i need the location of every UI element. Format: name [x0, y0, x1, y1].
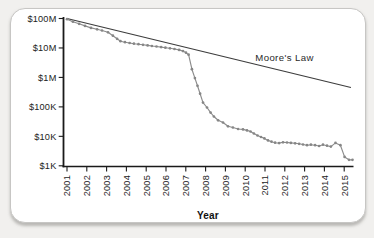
y-tick-label: $100M: [27, 14, 56, 24]
y-tick-label: $100K: [29, 102, 57, 112]
cost-series-marker: [294, 142, 297, 145]
x-tick-label: 2010: [241, 175, 251, 196]
cost-series-marker: [302, 143, 305, 146]
cost-series-marker: [90, 27, 93, 30]
cost-series-marker: [160, 46, 163, 49]
cost-series-marker: [185, 51, 188, 54]
cost-series-marker: [124, 41, 127, 44]
cost-series-marker: [155, 45, 158, 48]
x-axis-title: Year: [197, 210, 219, 221]
x-tick-label: 2003: [102, 175, 112, 196]
series-layer: [66, 18, 354, 161]
cost-series-marker: [213, 115, 216, 118]
cost-series-marker: [326, 144, 329, 147]
x-tick-label: 2007: [181, 175, 191, 196]
cost-series-marker: [119, 40, 122, 43]
x-tick-label: 2011: [260, 175, 270, 196]
x-tick-label: 2008: [201, 175, 211, 196]
cost-series-marker: [351, 158, 354, 161]
cost-series-marker: [227, 125, 230, 128]
cost-series-marker: [298, 142, 301, 145]
y-tick-label: $10K: [34, 132, 57, 142]
y-tick-label: $1M: [38, 73, 56, 83]
cost-series-marker: [146, 44, 149, 47]
x-tick-label: 2012: [280, 175, 290, 196]
cost-series-marker: [112, 34, 115, 37]
cost-series-marker: [96, 28, 99, 31]
cost-series-marker: [142, 43, 145, 46]
cost-series-marker: [196, 84, 199, 87]
cost-series-marker: [310, 143, 313, 146]
cost-series-marker: [178, 49, 181, 52]
cost-per-genome-chart: $100M$10M$1M$100K$10K$1K2001200220032004…: [0, 0, 374, 238]
cost-series-marker: [128, 42, 131, 45]
x-tick-label: 2014: [320, 175, 330, 196]
cost-series-marker: [267, 139, 270, 142]
cost-series-marker: [282, 141, 285, 144]
cost-series-marker: [330, 145, 333, 148]
cost-series-marker: [242, 128, 245, 131]
cost-series-marker: [191, 68, 194, 71]
cost-series-marker: [84, 25, 87, 28]
x-tick-label: 2015: [340, 175, 350, 196]
cost-series-marker: [318, 145, 321, 148]
cost-series-marker: [169, 47, 172, 50]
cost-series-marker: [253, 132, 256, 135]
cost-series-marker: [101, 29, 104, 32]
cost-series-marker: [278, 142, 281, 145]
x-tick-label: 2004: [122, 175, 132, 196]
cost-series-marker: [222, 121, 225, 124]
cost-series-marker: [237, 128, 240, 131]
cost-series-marker: [343, 156, 346, 159]
cost-series-marker: [137, 43, 140, 46]
cost-series-marker: [173, 48, 176, 51]
cost-series-marker: [348, 158, 351, 161]
cost-series-marker: [194, 77, 197, 80]
x-tick-label: 2009: [221, 175, 231, 196]
x-tick-label: 2013: [300, 175, 310, 196]
cost-series-marker: [151, 45, 154, 48]
cost-series-marker: [206, 106, 209, 109]
cost-series-line: [67, 19, 353, 160]
y-tick-label: $10M: [33, 43, 57, 53]
cost-series-marker: [199, 92, 202, 95]
cost-series-marker: [217, 119, 220, 122]
cost-series-marker: [164, 46, 167, 49]
cost-series-marker: [107, 31, 110, 34]
x-tick-label: 2001: [62, 175, 72, 196]
cost-series-marker: [187, 53, 190, 56]
cost-series-marker: [202, 101, 205, 104]
cost-series-marker: [246, 129, 249, 132]
cost-series-marker: [249, 130, 252, 133]
cost-series-marker: [274, 141, 277, 144]
x-tick-label: 2005: [142, 175, 152, 196]
cost-series-marker: [116, 37, 119, 40]
x-tick-label: 2006: [161, 175, 171, 196]
cost-series-marker: [263, 137, 266, 140]
cost-series-marker: [256, 134, 259, 137]
cost-series-marker: [334, 142, 337, 145]
cost-series-marker: [314, 144, 317, 147]
moores-law-label: Moore's Law: [255, 52, 314, 63]
cost-series-marker: [306, 144, 309, 147]
axes: $100M$10M$1M$100K$10K$1K2001200220032004…: [27, 14, 353, 197]
cost-series-marker: [182, 50, 185, 53]
cost-series-marker: [133, 42, 136, 45]
cost-series-marker: [66, 18, 69, 21]
cost-series-marker: [286, 141, 289, 144]
cost-series-marker: [209, 111, 212, 114]
cost-series-marker: [290, 142, 293, 145]
x-tick-label: 2002: [82, 175, 92, 196]
cost-series-marker: [72, 20, 75, 23]
cost-series-marker: [260, 136, 263, 139]
y-tick-label: $1K: [40, 161, 58, 171]
cost-series-marker: [339, 144, 342, 147]
page-background: $100M$10M$1M$100K$10K$1K2001200220032004…: [0, 0, 374, 238]
cost-series-marker: [232, 126, 235, 129]
cost-series-marker: [270, 140, 273, 143]
cost-series-marker: [78, 22, 81, 25]
cost-series-marker: [322, 143, 325, 146]
